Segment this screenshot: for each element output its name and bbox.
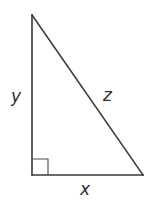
label-x: x [79,179,91,199]
right-triangle-diagram: y z x [0,0,150,201]
label-z: z [102,85,113,105]
right-angle-marker [32,159,48,175]
label-y: y [10,86,22,106]
hypotenuse-z [32,15,143,175]
